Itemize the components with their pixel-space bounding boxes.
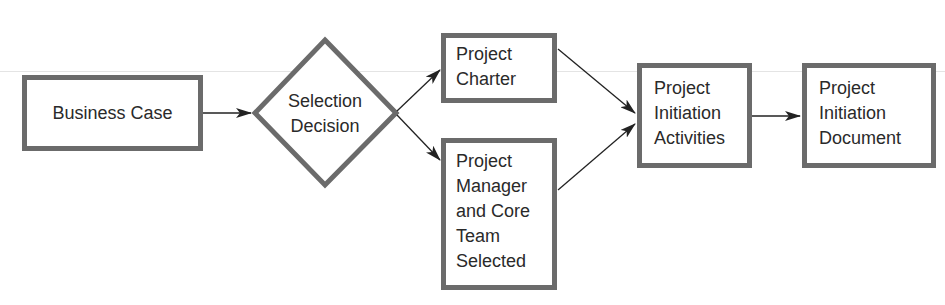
node-label: Business Case bbox=[52, 101, 172, 126]
node-pm-core-team: Project Manager and Core Team Selected bbox=[441, 138, 557, 290]
node-business-case: Business Case bbox=[22, 75, 203, 151]
node-label-line: Project bbox=[456, 42, 552, 67]
node-label-line: Selection bbox=[262, 89, 388, 114]
node-label-line: Initiation bbox=[819, 101, 931, 126]
node-label-line: Charter bbox=[456, 67, 552, 92]
node-project-charter: Project Charter bbox=[441, 33, 557, 103]
node-label-line: Decision bbox=[262, 114, 388, 139]
node-label-line: Selected bbox=[456, 249, 552, 274]
node-initiation-document: Project Initiation Document bbox=[802, 63, 936, 168]
arrow-decision-to-charter bbox=[397, 70, 440, 111]
node-label-line: and Core bbox=[456, 199, 552, 224]
arrow-team-to-activities bbox=[558, 124, 635, 190]
node-initiation-activities: Project Initiation Activities bbox=[637, 63, 752, 168]
arrow-decision-to-team bbox=[397, 115, 440, 160]
node-label-line: Initiation bbox=[654, 101, 747, 126]
node-label-line: Project bbox=[819, 76, 931, 101]
node-label-line: Project bbox=[456, 149, 552, 174]
arrow-charter-to-activities bbox=[558, 49, 635, 113]
node-selection-decision: Selection Decision bbox=[262, 89, 388, 139]
node-label-line: Activities bbox=[654, 126, 747, 151]
node-label-line: Team bbox=[456, 224, 552, 249]
node-label-line: Document bbox=[819, 126, 931, 151]
node-label-line: Manager bbox=[456, 174, 552, 199]
node-label-line: Project bbox=[654, 76, 747, 101]
